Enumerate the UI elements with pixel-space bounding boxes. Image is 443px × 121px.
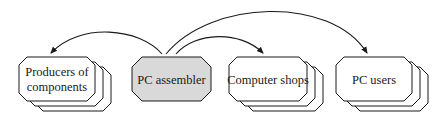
diagram-canvas: Producers of components PC assembler Com…	[0, 0, 443, 121]
edges	[51, 11, 367, 54]
node-pc-users-label: PC users	[352, 73, 396, 87]
edge-assembler-to-producers	[51, 32, 162, 54]
node-producers-label-line1: Producers of	[25, 65, 89, 79]
node-producers-label-line2: components	[27, 80, 88, 94]
edge-assembler-to-pc-users	[166, 11, 367, 54]
edge-assembler-to-computer-shops	[176, 37, 263, 54]
node-pc-users[interactable]: PC users	[336, 57, 428, 111]
node-producers[interactable]: Producers of components	[19, 57, 111, 111]
node-computer-shops-label: Computer shops	[227, 73, 309, 87]
node-computer-shops[interactable]: Computer shops	[227, 57, 323, 111]
node-pc-assembler[interactable]: PC assembler	[132, 57, 211, 101]
node-pc-assembler-label: PC assembler	[137, 73, 206, 87]
